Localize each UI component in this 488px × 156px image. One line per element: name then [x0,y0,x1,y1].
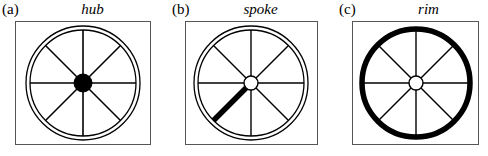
wheel-diagram-hub [15,21,151,145]
wheel-group [26,26,140,140]
wagon-wheel-figure: (a) hub [0,0,488,156]
hub-circle [244,76,258,90]
wheel-group [362,29,470,137]
panel-spoke: (b) spoke [170,0,333,156]
wheel-diagram-spoke [185,21,318,145]
panel-title-spoke: spoke [170,1,333,17]
hub-circle [409,76,423,90]
panel-rim: (c) rim [337,0,488,156]
panel-hub: (a) hub [0,0,163,156]
wheel-diagram-rim [352,21,479,145]
panel-title-hub: hub [0,1,163,17]
panel-title-rim: rim [337,1,488,17]
hub-circle [74,74,92,92]
wheel-group [194,26,308,140]
